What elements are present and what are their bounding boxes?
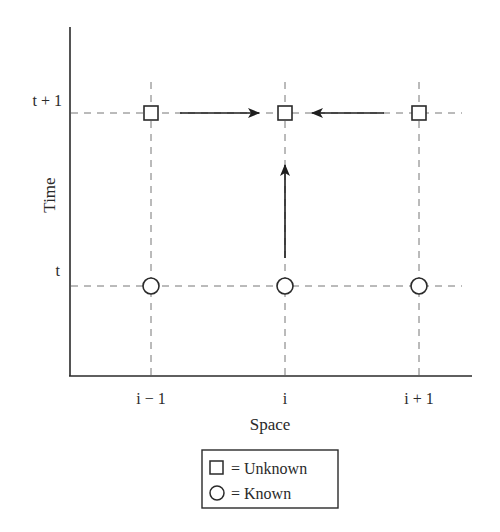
legend: = Unknown = Known	[202, 450, 338, 508]
legend-unknown-label: = Unknown	[231, 460, 307, 477]
legend-known-label: = Known	[231, 485, 291, 502]
x-tick-i: i	[283, 390, 288, 407]
square-icon	[144, 106, 158, 120]
circle-icon	[143, 278, 159, 294]
square-icon	[412, 106, 426, 120]
y-axis-label: Time	[40, 177, 59, 212]
grid-lines	[71, 82, 462, 375]
implicit-scheme-diagram: t + 1 t Time i − 1 i i + 1 Space = Unkno…	[0, 0, 500, 532]
y-tick-t-plus-1: t + 1	[33, 92, 62, 109]
axes	[69, 27, 472, 376]
square-icon	[278, 106, 292, 120]
x-axis-label: Space	[250, 415, 291, 434]
circle-icon	[411, 278, 427, 294]
x-tick-i-minus-1: i − 1	[136, 390, 165, 407]
circle-icon	[210, 486, 224, 500]
x-tick-i-plus-1: i + 1	[404, 390, 433, 407]
circle-icon	[277, 278, 293, 294]
arrows	[180, 113, 384, 258]
square-icon	[210, 461, 223, 474]
y-tick-t: t	[56, 262, 61, 279]
